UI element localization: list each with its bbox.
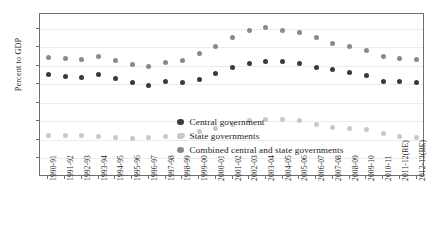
data-point (347, 70, 352, 75)
y-tick-mark (36, 157, 39, 158)
x-tick-label: 2004-05 (285, 155, 293, 181)
x-tick-mark (416, 176, 417, 179)
x-tick-label: 1995-96 (134, 155, 142, 181)
data-point (330, 67, 335, 72)
data-point (96, 134, 101, 139)
x-tick-label: 2008-09 (352, 155, 360, 181)
x-tick-mark (165, 176, 166, 179)
y-axis-title: Percent to GDP (14, 10, 23, 120)
data-point (297, 61, 302, 66)
data-point (130, 136, 135, 141)
x-tick-label: 2012-13(BE) (419, 140, 427, 181)
data-point (213, 44, 218, 49)
x-tick-mark (382, 176, 383, 179)
legend-item-label: State governments (190, 131, 260, 141)
data-point (79, 133, 84, 138)
y-tick-mark (36, 139, 39, 140)
chart-legend: Central governmentState governmentsCombi… (177, 115, 343, 157)
x-tick-label: 1994-95 (117, 155, 125, 181)
x-tick-mark (131, 176, 132, 179)
data-point (347, 44, 352, 49)
gridline (40, 29, 423, 30)
x-tick-label: 2000-01 (218, 155, 226, 181)
data-point (130, 62, 135, 67)
data-point (330, 41, 335, 46)
data-point (347, 126, 352, 131)
legend-marker-icon (177, 133, 184, 140)
data-point (364, 127, 369, 132)
x-tick-label: 1998-99 (184, 155, 192, 181)
gridline (40, 158, 423, 159)
data-point (79, 57, 84, 62)
data-point (46, 133, 51, 138)
y-tick-mark (36, 83, 39, 84)
data-point (414, 57, 419, 62)
legend-item-label: Combined central and state governments (190, 145, 344, 155)
x-tick-label: 1990-91 (50, 155, 58, 181)
data-point (247, 28, 252, 33)
x-tick-label: 2006-07 (318, 155, 326, 181)
y-tick-mark (36, 65, 39, 66)
data-point (63, 133, 68, 138)
data-point (314, 65, 319, 70)
x-tick-label: 2003-04 (268, 155, 276, 181)
data-point (381, 54, 386, 59)
data-point (364, 48, 369, 53)
x-tick-mark (332, 176, 333, 179)
x-tick-label: 2001-02 (235, 155, 243, 181)
data-point (96, 54, 101, 59)
legend-marker-icon (177, 147, 184, 154)
x-tick-mark (282, 176, 283, 179)
x-tick-mark (399, 176, 400, 179)
data-point (146, 83, 151, 88)
data-point (146, 64, 151, 69)
x-tick-label: 2010-11 (385, 155, 393, 181)
x-tick-label: 1996-97 (151, 155, 159, 181)
x-tick-label: 1999-00 (201, 155, 209, 181)
data-point (163, 134, 168, 139)
x-tick-label: 2009-10 (368, 155, 376, 181)
data-point (180, 80, 185, 85)
data-point (364, 73, 369, 78)
data-point (113, 135, 118, 140)
data-point (280, 59, 285, 64)
x-tick-mark (198, 176, 199, 179)
data-point (163, 60, 168, 65)
data-point (230, 35, 235, 40)
x-tick-mark (349, 176, 350, 179)
data-point (46, 72, 51, 77)
x-tick-mark (265, 176, 266, 179)
data-point (130, 80, 135, 85)
data-point (197, 77, 202, 82)
data-point (381, 131, 386, 136)
data-point (314, 35, 319, 40)
data-point (63, 74, 68, 79)
data-point (247, 61, 252, 66)
data-point (46, 55, 51, 60)
x-tick-label: 1993-94 (101, 155, 109, 181)
legend-item-label: Central government (190, 117, 265, 127)
data-point (280, 28, 285, 33)
legend-marker-icon (177, 119, 184, 126)
data-point (263, 59, 268, 64)
x-tick-mark (232, 176, 233, 179)
legend-item: Combined central and state governments (177, 143, 343, 157)
x-tick-mark (64, 176, 65, 179)
y-tick-mark (36, 46, 39, 47)
data-point (197, 51, 202, 56)
x-tick-label: 2011-12(RE) (402, 140, 410, 181)
x-tick-label: 1991-92 (67, 155, 75, 181)
x-tick-mark (148, 176, 149, 179)
gridline (40, 84, 423, 85)
x-tick-label: 2002-03 (251, 155, 259, 181)
x-tick-mark (81, 176, 82, 179)
data-point (397, 79, 402, 84)
x-tick-label: 1992-93 (84, 155, 92, 181)
data-point (381, 79, 386, 84)
data-point (79, 75, 84, 80)
x-tick-label: 2007-08 (335, 155, 343, 181)
debt-to-gdp-scatter-chart: Percent to GDP 1020304050607080 1990-911… (0, 0, 441, 249)
data-point (213, 71, 218, 76)
gridline (40, 103, 423, 104)
data-point (297, 30, 302, 35)
